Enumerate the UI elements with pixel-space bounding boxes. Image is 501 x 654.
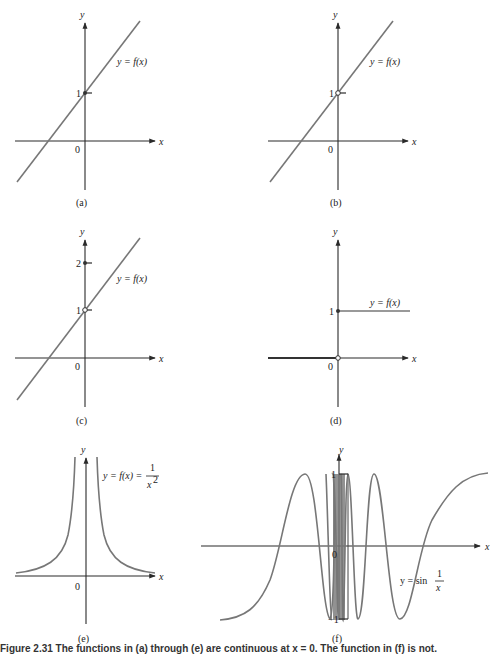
fraction-numerator: 1	[437, 568, 442, 579]
panel-label: (a)	[76, 197, 87, 209]
x-axis-label: x	[158, 353, 164, 364]
panel-label: (d)	[330, 415, 342, 427]
origin-label: 0	[328, 361, 333, 372]
curve-label-lhs: y = f(x) =	[102, 470, 142, 482]
origin-label: 0	[75, 144, 80, 155]
panel-d: y x 0 1 y = f(x) (d)	[268, 226, 417, 427]
curve-label: y = f(x)	[369, 56, 401, 68]
x-axis-label: x	[158, 136, 164, 147]
tick-label-2: 2	[76, 258, 81, 269]
curve-label: y = sin 1 x	[400, 568, 444, 593]
x-axis-label: x	[411, 353, 417, 364]
curve-label: y = f(x)	[116, 273, 148, 285]
fraction-denominator: x	[435, 582, 441, 593]
line-curve	[17, 21, 140, 182]
fraction-numerator: 1	[150, 462, 155, 473]
filled-point	[83, 91, 87, 95]
panel-e: y x 0 y = f(x) = 1 x 2 (e)	[15, 444, 164, 645]
origin-label: 0	[328, 144, 333, 155]
panel-f: y x 0 1 −1 y = sin 1 x (f)	[201, 444, 490, 645]
y-axis-label: y	[338, 444, 344, 455]
y-axis-label: y	[79, 226, 85, 237]
tick-label-1: 1	[331, 469, 336, 480]
origin-label: 0	[75, 361, 80, 372]
panel-c: y x 0 1 2 y = f(x) (c)	[15, 226, 164, 427]
y-axis-label: y	[79, 9, 85, 20]
curve-label: y = f(x)	[369, 297, 401, 309]
y-axis-label: y	[332, 226, 338, 237]
filled-point	[336, 309, 340, 313]
tick-label-1: 1	[329, 88, 334, 99]
x-axis-label: x	[158, 571, 164, 582]
origin-label: 0	[332, 549, 337, 560]
curve-label-lhs: y = sin	[400, 575, 427, 586]
panel-b: y x 0 1 y = f(x) (b)	[268, 9, 417, 209]
panel-a: y x 0 1 y = f(x) (a)	[15, 9, 164, 209]
origin-label: 0	[75, 581, 80, 592]
open-circle-hole	[336, 356, 341, 361]
open-circle-hole	[83, 308, 88, 313]
panel-label: (c)	[76, 415, 87, 427]
figure-caption: Figure 2.31 The functions in (a) through…	[0, 643, 437, 654]
x-axis-label: x	[484, 541, 490, 552]
fraction-denominator: x	[146, 479, 152, 490]
tick-label-1: 1	[76, 305, 81, 316]
panel-label: (b)	[330, 197, 342, 209]
curve-label: y = f(x) = 1 x 2	[102, 462, 159, 490]
tick-label-neg-1: −1	[328, 614, 339, 625]
line-curve	[270, 21, 393, 182]
curve-label: y = f(x)	[116, 56, 148, 68]
curve-left-branch	[16, 457, 75, 573]
tick-label-1: 1	[329, 306, 334, 317]
y-axis-label: y	[332, 9, 338, 20]
open-circle-hole	[336, 91, 341, 96]
filled-point	[83, 261, 87, 265]
tick-label-1: 1	[76, 88, 81, 99]
fraction-exponent: 2	[153, 474, 158, 485]
y-axis-label: y	[80, 444, 86, 455]
x-axis-label: x	[411, 136, 417, 147]
